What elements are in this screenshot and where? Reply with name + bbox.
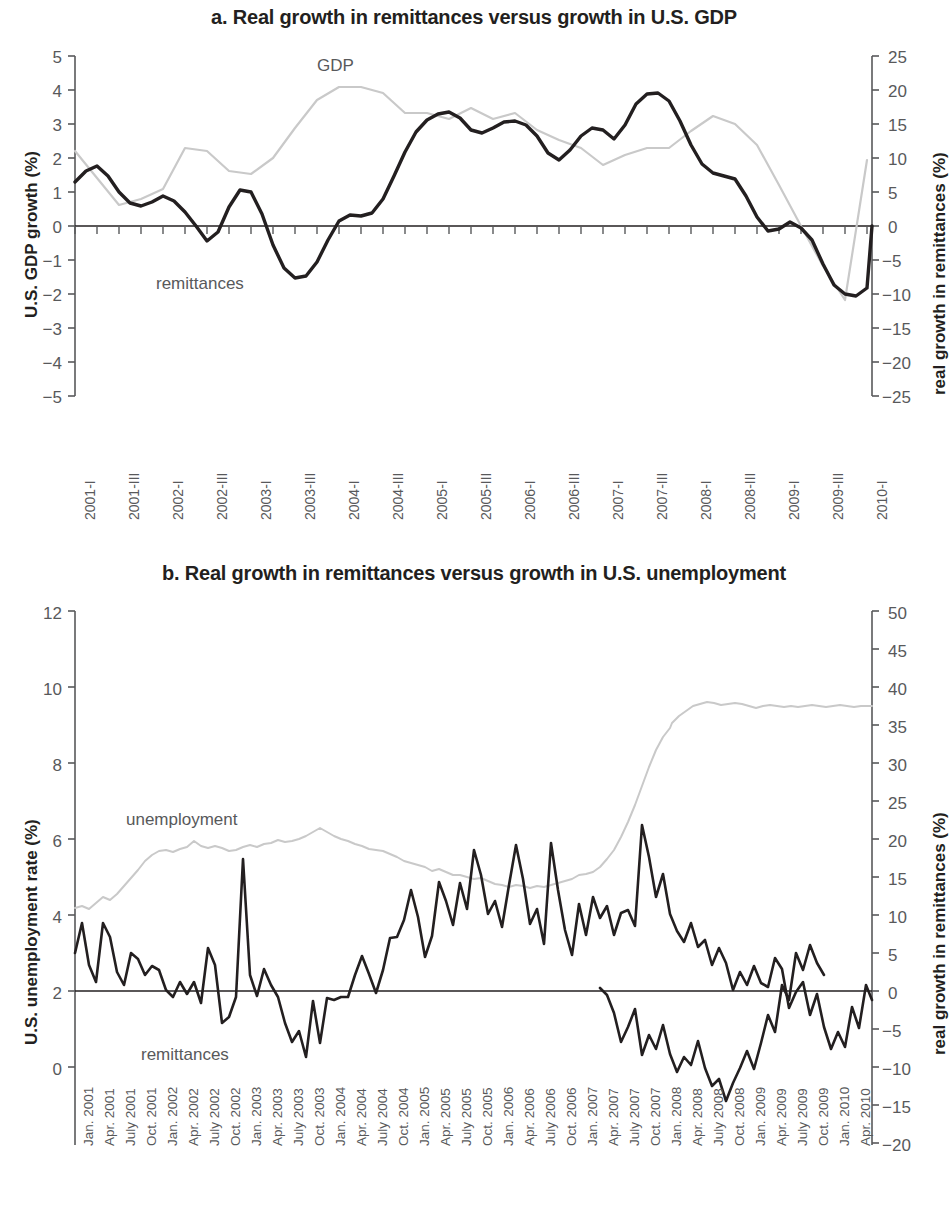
panel-b-x-tick: Jan. 2001 (81, 1087, 96, 1146)
panel-b-x-tick: Jan. 2002 (165, 1087, 180, 1146)
panel-b-x-tick: July 2002 (207, 1088, 222, 1146)
panel-a-x-tick: 2002-III (214, 473, 230, 520)
panel-b-right-axis (872, 611, 879, 1145)
panel-b-x-tick: July 2001 (123, 1088, 138, 1146)
panel-a-x-tick: 2002-I (170, 480, 186, 520)
panel-b-x-tick: Oct. 2008 (732, 1087, 747, 1146)
panel-a: a. Real growth in remittances versus gro… (0, 0, 948, 545)
panel-b-x-tick: Oct. 2003 (312, 1087, 327, 1146)
panel-a-x-tick: 2007-III (654, 473, 670, 520)
panel-b-x-tick: July 2006 (543, 1088, 558, 1146)
panel-a-x-tick: 2003-III (302, 473, 318, 520)
panel-a-plot (0, 0, 948, 545)
panel-a-x-tick: 2004-I (346, 480, 362, 520)
panel-a-x-tick: 2005-I (434, 480, 450, 520)
panel-b-x-tick: Oct. 2001 (144, 1087, 159, 1146)
panel-b-x-tick: Apr. 2008 (690, 1088, 705, 1146)
panel-b-x-tick: Apr. 2009 (774, 1088, 789, 1146)
panel-b-x-tick: Jan. 2010 (837, 1087, 852, 1146)
panel-a-x-tick: 2004-III (390, 473, 406, 520)
panel-b-x-tick: Jan. 2003 (249, 1087, 264, 1146)
panel-a-x-tick: 2006-I (522, 480, 538, 520)
panel-b-series-remittances (75, 825, 872, 1057)
panel-a-left-axis (68, 56, 75, 396)
panel-b-x-tick: Jan. 2008 (669, 1087, 684, 1146)
panel-b-x-tick: Apr. 2003 (270, 1088, 285, 1146)
panel-b: b. Real growth in remittances versus gro… (0, 545, 948, 1232)
panel-b-left-axis (68, 611, 75, 1145)
panel-a-series-gdp (75, 87, 867, 300)
panel-a-x-tick: 2008-III (742, 473, 758, 520)
panel-a-x-tick: 2009-III (830, 473, 846, 520)
panel-b-x-tick: Jan. 2009 (753, 1087, 768, 1146)
panel-b-x-tick: Apr. 2004 (354, 1088, 369, 1146)
panel-b-x-tick: Jan. 2006 (501, 1087, 516, 1146)
panel-b-x-tick: Oct. 2005 (480, 1087, 495, 1146)
panel-a-x-tick: 2009-I (786, 480, 802, 520)
panel-a-x-tick: 2001-I (82, 480, 98, 520)
panel-b-x-tick: Apr. 2007 (606, 1088, 621, 1146)
panel-b-x-tick: Oct. 2007 (648, 1087, 663, 1146)
panel-b-x-tick: Jan. 2005 (417, 1087, 432, 1146)
panel-b-series-remittances-tail (600, 945, 824, 1101)
panel-b-x-tick: July 2007 (627, 1088, 642, 1146)
panel-b-x-tick: July 2009 (795, 1088, 810, 1146)
panel-b-x-tick: July 2003 (291, 1088, 306, 1146)
panel-b-x-tick: Jan. 2007 (585, 1087, 600, 1146)
panel-b-x-tick: Apr. 2010 (858, 1088, 873, 1146)
panel-b-x-tick: Oct. 2002 (228, 1087, 243, 1146)
panel-b-x-tick: Apr. 2001 (102, 1088, 117, 1146)
panel-a-x-tick: 2008-I (698, 480, 714, 520)
panel-a-series-remittances (75, 93, 872, 296)
panel-b-series-unemployment (75, 702, 872, 909)
panel-a-x-tick: 2006-III (566, 473, 582, 520)
panel-a-x-tick: 2007-I (610, 480, 626, 520)
panel-a-x-tick: 2010-I (874, 480, 890, 520)
panel-b-x-tick: Apr. 2005 (438, 1088, 453, 1146)
panel-a-x-tick: 2005-III (478, 473, 494, 520)
panel-b-x-tick: Jan. 2004 (333, 1087, 348, 1146)
panel-b-x-tick: July 2008 (711, 1088, 726, 1146)
panel-b-x-tick: July 2004 (375, 1088, 390, 1146)
panel-b-x-tick: Apr. 2002 (186, 1088, 201, 1146)
panel-a-x-ticks (75, 226, 867, 234)
panel-b-x-tick: July 2005 (459, 1088, 474, 1146)
panel-b-x-tick: Oct. 2006 (564, 1087, 579, 1146)
panel-b-x-tick: Oct. 2009 (816, 1087, 831, 1146)
panel-b-x-tick: Oct. 2004 (396, 1087, 411, 1146)
panel-a-x-tick: 2003-I (258, 480, 274, 520)
panel-b-x-tick: Apr. 2006 (522, 1088, 537, 1146)
panel-a-x-tick: 2001-III (126, 473, 142, 520)
